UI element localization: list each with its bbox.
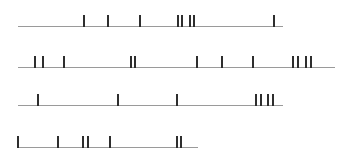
event-tick (42, 56, 44, 68)
event-tick (272, 94, 274, 106)
event-tick (193, 15, 195, 27)
timeline-baseline (18, 67, 335, 68)
event-tick (260, 94, 262, 106)
event-tick (130, 56, 132, 68)
event-tick (134, 56, 136, 68)
event-tick (57, 136, 59, 148)
event-tick (273, 15, 275, 27)
event-tick (109, 136, 111, 148)
event-tick (181, 15, 183, 27)
timeline-baseline (18, 26, 283, 27)
event-tick (196, 56, 198, 68)
event-tick (292, 56, 294, 68)
event-tick (252, 56, 254, 68)
event-tick (37, 94, 39, 106)
event-tick (87, 136, 89, 148)
event-tick (107, 15, 109, 27)
event-tick (189, 15, 191, 27)
event-tick (139, 15, 141, 27)
event-tick (17, 136, 19, 148)
event-tick (117, 94, 119, 106)
event-tick (176, 94, 178, 106)
event-tick (34, 56, 36, 68)
event-tick (63, 56, 65, 68)
event-tick (310, 56, 312, 68)
event-tick (221, 56, 223, 68)
event-tick (305, 56, 307, 68)
event-tick (297, 56, 299, 68)
event-tick (82, 136, 84, 148)
timeline-baseline (17, 147, 198, 148)
event-tick (83, 15, 85, 27)
event-timeline-diagram (0, 0, 347, 163)
event-tick (176, 136, 178, 148)
timeline-baseline (18, 105, 283, 106)
event-tick (180, 136, 182, 148)
event-tick (267, 94, 269, 106)
event-tick (255, 94, 257, 106)
event-tick (177, 15, 179, 27)
